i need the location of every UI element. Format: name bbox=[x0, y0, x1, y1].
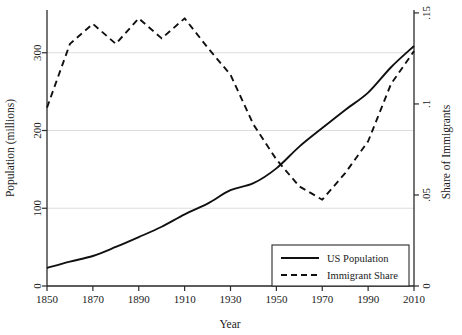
y2-tick-label: .05 bbox=[420, 188, 432, 202]
x-tick-label: 1890 bbox=[128, 293, 151, 305]
x-tick-label: 1910 bbox=[174, 293, 197, 305]
y-tick-label: 200 bbox=[31, 122, 43, 139]
x-tick-label: 1990 bbox=[357, 293, 380, 305]
x-tick-label: 1870 bbox=[82, 293, 105, 305]
population-immigrant-share-chart: 0100200300 0.05.1.15 1850187018901910193… bbox=[0, 0, 462, 335]
x-tick-label: 1850 bbox=[36, 293, 59, 305]
legend-label-immigrant-share: Immigrant Share bbox=[327, 270, 398, 281]
x-tick-label: 1930 bbox=[220, 293, 243, 305]
chart-figure: 0100200300 0.05.1.15 1850187018901910193… bbox=[0, 0, 462, 335]
x-axis-title: Year bbox=[219, 318, 240, 330]
x-tick-label: 1970 bbox=[311, 293, 334, 305]
chart-legend[interactable]: US Population Immigrant Share bbox=[272, 245, 409, 286]
y2-axis-title: Share of Immigrants bbox=[440, 104, 453, 199]
y-tick-label: 0 bbox=[31, 283, 43, 289]
legend-label-us-population: US Population bbox=[327, 253, 389, 264]
y2-tick-label: .1 bbox=[420, 100, 432, 108]
x-tick-label: 1950 bbox=[265, 293, 288, 305]
y2-tick-label: .15 bbox=[420, 6, 432, 20]
y-tick-label: 100 bbox=[31, 200, 43, 217]
y-tick-label: 300 bbox=[31, 44, 43, 61]
x-tick-label: 2010 bbox=[403, 293, 426, 305]
y2-tick-label: 0 bbox=[420, 283, 432, 289]
y-axis-title: Population (millions) bbox=[4, 99, 17, 197]
